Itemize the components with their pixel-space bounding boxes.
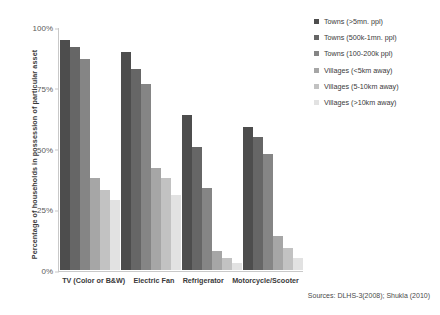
legend-label: Villages (5-10km away) [324, 82, 399, 91]
source-note: Sources: DLHS-3(2008); Shukla (2010) [308, 292, 430, 299]
legend-swatch-icon [314, 35, 319, 40]
bar [192, 147, 202, 270]
legend-item: Villages (>10km away) [314, 98, 399, 107]
x-axis-label: Electric Fan [134, 276, 175, 285]
bar [283, 248, 293, 270]
y-axis-title: Percentage of households in possession o… [30, 25, 39, 285]
bar [182, 115, 192, 270]
legend-label: Towns (>5mn. ppl) [324, 17, 383, 26]
legend-swatch-icon [314, 100, 319, 105]
bar [161, 178, 171, 270]
legend-label: Villages (<5km away) [324, 66, 392, 75]
bar [253, 137, 263, 270]
x-axis-label: Motorcycle/Scooter [232, 276, 299, 285]
bar [263, 154, 273, 270]
y-axis-tick-label: 0% [41, 267, 59, 276]
legend-swatch-icon [314, 51, 319, 56]
legend-item: Villages (<5km away) [314, 66, 399, 75]
bar [110, 200, 120, 270]
plot-area: 100%75%50%25%0% [58, 28, 303, 272]
bar [243, 127, 253, 270]
bar [70, 47, 80, 270]
legend-label: Towns (100-200k ppl) [324, 49, 393, 58]
bar [100, 190, 110, 270]
bar [212, 251, 222, 270]
bar [90, 178, 100, 270]
bar [121, 52, 131, 270]
bar [171, 195, 181, 270]
bar [202, 188, 212, 270]
bar-group [243, 28, 303, 270]
chart-legend: Towns (>5mn. ppl)Towns (500k-1mn. ppl)To… [314, 17, 399, 107]
legend-swatch-icon [314, 68, 319, 73]
legend-swatch-icon [314, 84, 319, 89]
chart-figure: Percentage of households in possession o… [0, 0, 440, 315]
bar [293, 258, 303, 270]
y-axis-tick-label: 75% [37, 84, 59, 93]
bar [232, 263, 242, 270]
bar [80, 59, 90, 270]
y-axis-tick-label: 50% [37, 145, 59, 154]
y-axis-tick-label: 100% [33, 24, 59, 33]
bar-group [121, 28, 181, 270]
bar-group [60, 28, 120, 270]
legend-item: Villages (5-10km away) [314, 82, 399, 91]
bar-groups [60, 28, 303, 270]
bar [222, 258, 232, 270]
legend-item: Towns (>5mn. ppl) [314, 17, 399, 26]
bar [151, 168, 161, 270]
x-axis-label: TV (Color or B&W) [62, 276, 125, 285]
bar-group [182, 28, 242, 270]
bar [141, 84, 151, 270]
legend-item: Towns (500k-1mn. ppl) [314, 33, 399, 42]
bar [60, 40, 70, 270]
bar [273, 236, 283, 270]
legend-swatch-icon [314, 19, 319, 24]
legend-item: Towns (100-200k ppl) [314, 49, 399, 58]
legend-label: Towns (500k-1mn. ppl) [324, 33, 397, 42]
x-axis-label: Refrigerator [183, 276, 224, 285]
legend-label: Villages (>10km away) [324, 98, 396, 107]
y-axis-tick-label: 25% [37, 206, 59, 215]
bar [131, 69, 141, 270]
x-axis-labels: TV (Color or B&W)Electric FanRefrigerato… [58, 276, 303, 285]
